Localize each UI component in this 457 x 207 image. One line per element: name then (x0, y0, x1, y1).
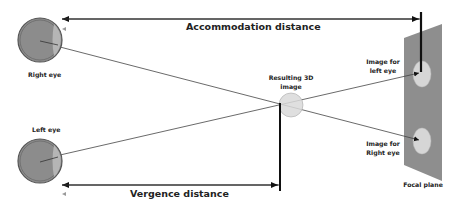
stereoscopic-diagram: Accommodation distance Vergence distance… (0, 0, 457, 207)
image-left-eye-label-line2: left eye (370, 67, 397, 75)
image-right-eye-label-line2: Right eye (366, 149, 399, 157)
accommodation-distance-label: Accommodation distance (186, 21, 321, 32)
small-marker-icon (62, 192, 66, 196)
resulting-3d-image (279, 93, 303, 117)
left-eye-icon (18, 139, 62, 183)
focal-plane (404, 24, 442, 181)
image-right-eye-label-line1: Image for (366, 140, 401, 148)
right-eye-label: Right eye (28, 71, 61, 79)
image-for-right-eye (413, 128, 431, 154)
left-eye-label: Left eye (32, 126, 60, 134)
vergence-distance-label: Vergence distance (130, 188, 229, 199)
focal-plane-label: Focal plane (403, 181, 443, 189)
right-eye-icon (18, 18, 62, 62)
image-left-eye-label-line1: Image for (366, 58, 401, 66)
resulting-3d-image-label-line2: image (280, 83, 301, 91)
resulting-3d-image-label-line1: Resulting 3D (269, 74, 314, 82)
small-marker-icon (62, 27, 66, 31)
sight-line-right-eye (60, 47, 419, 140)
sight-line-left-eye (60, 73, 419, 155)
